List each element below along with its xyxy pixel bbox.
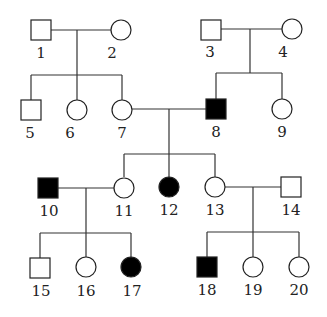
individual-6: 6 [65,100,87,142]
individual-11: 11 [114,178,134,220]
individual-label: 19 [243,281,262,299]
individual-label: 5 [25,124,35,142]
individual-13: 13 [205,177,225,219]
male-affected-symbol [206,99,226,119]
individual-14: 14 [281,177,301,219]
individual-8: 8 [206,99,226,141]
individual-label: 16 [76,282,95,300]
individual-label: 18 [197,281,216,299]
female-unaffected-symbol [205,177,225,197]
individual-12: 12 [159,177,179,219]
individual-label: 3 [205,43,215,61]
individual-16: 16 [76,257,96,300]
male-unaffected-symbol [281,177,301,197]
individual-18: 18 [197,257,217,299]
individual-label: 6 [65,124,75,142]
individual-label: 4 [278,43,288,61]
individual-label: 12 [159,201,178,219]
individual-3: 3 [201,20,221,61]
female-affected-symbol [159,177,179,197]
female-unaffected-symbol [243,257,263,277]
individual-label: 10 [39,202,58,220]
individual-7: 7 [112,100,132,142]
female-unaffected-symbol [112,100,132,120]
individual-label: 15 [31,282,50,300]
male-unaffected-symbol [30,258,50,278]
individual-label: 7 [117,124,127,142]
pedigree-diagram: 1 2 3 4 5 6 7 8 9 10 11 12 [0,0,327,317]
individual-label: 2 [107,44,117,62]
male-unaffected-symbol [31,20,51,40]
individual-label: 20 [289,281,308,299]
female-unaffected-symbol [289,257,309,277]
individual-2: 2 [107,20,131,62]
individual-label: 13 [205,201,224,219]
individual-label: 11 [114,202,133,220]
female-unaffected-symbol [114,178,134,198]
male-affected-symbol [197,257,217,277]
connector-lines [31,29,299,258]
female-unaffected-symbol [76,257,96,277]
individual-19: 19 [243,257,263,299]
individual-label: 17 [122,282,141,300]
female-unaffected-symbol [111,20,131,40]
individual-label: 8 [211,123,221,141]
female-unaffected-symbol [67,100,87,120]
female-unaffected-symbol [282,19,302,39]
individual-4: 4 [278,19,302,61]
individual-label: 14 [281,201,300,219]
individual-20: 20 [289,257,309,299]
individual-5: 5 [21,100,41,142]
female-affected-symbol [121,257,141,277]
individual-1: 1 [31,20,51,62]
individual-label: 1 [36,44,46,62]
individual-label: 9 [277,123,287,141]
female-unaffected-symbol [272,99,292,119]
male-unaffected-symbol [201,20,221,40]
individual-17: 17 [121,257,142,300]
male-unaffected-symbol [21,100,41,120]
individual-15: 15 [30,258,51,300]
individual-10: 10 [38,178,59,220]
individual-9: 9 [272,99,292,141]
male-affected-symbol [38,178,58,198]
